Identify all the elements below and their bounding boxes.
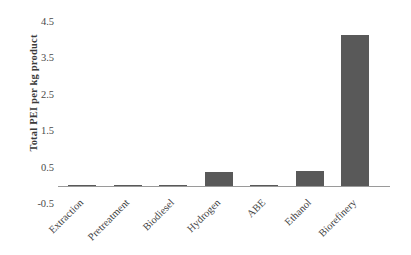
bar-chart: Total PEI per kg product 4.53.52.51.50.5… [0,0,411,255]
x-axis-tick-labels: ExtractionPretreatmentBiodieselHydrogenA… [0,0,411,255]
x-axis-tick-label: Extraction [0,198,86,255]
